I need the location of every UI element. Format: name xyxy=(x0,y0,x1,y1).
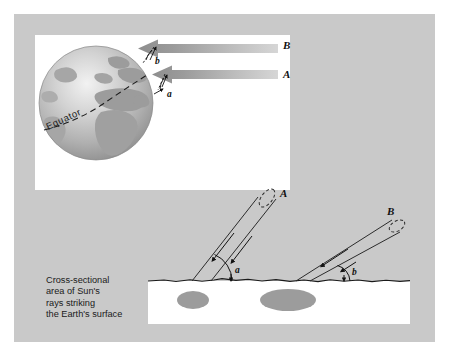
globe-inset-panel xyxy=(35,35,290,190)
caption-line-1: Cross-sectional xyxy=(46,275,156,286)
cross-section-band xyxy=(148,281,410,324)
caption-line-2: area of Sun's xyxy=(46,286,156,297)
cross-section-caption: Cross-sectional area of Sun's rays strik… xyxy=(46,275,156,321)
caption-line-4: the Earth's surface xyxy=(46,309,156,320)
caption-line-3: rays striking xyxy=(46,298,156,309)
figure-root: Equator B A b a xyxy=(0,0,449,356)
